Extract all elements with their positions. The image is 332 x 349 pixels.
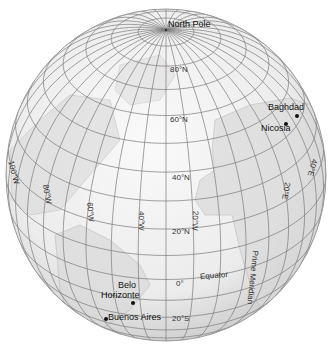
lat-label-20s: 20°S <box>172 315 189 323</box>
city-label-nicosia: Nicosia <box>261 124 291 133</box>
north-pole-label: North Pole <box>168 20 211 29</box>
city-dot-baghdad <box>295 114 299 118</box>
north-pole-marker <box>165 29 167 31</box>
city-label-belo: Belo <box>118 281 136 290</box>
city-label-buenos-aires: Buenos Aires <box>108 313 161 322</box>
lat-label-60n: 60°N <box>170 116 188 124</box>
lon-label-60w: 60°W <box>85 202 95 222</box>
lat-label-20n: 20°N <box>172 228 190 236</box>
lon-label-40w: 40°W <box>137 211 145 231</box>
lon-label-20w: 20°W <box>190 211 199 231</box>
lat-label-80n: 80°N <box>170 66 188 74</box>
lat-label-0: 0° <box>176 280 184 288</box>
city-label-horizonte: Horizonte <box>101 291 140 300</box>
lon-label-20e: 20°E <box>280 182 291 201</box>
lat-label-40n: 40°N <box>172 174 190 182</box>
city-label-baghdad: Baghdad <box>268 103 304 112</box>
globe-map <box>0 0 332 349</box>
city-dot-belo-horizonte <box>131 301 135 305</box>
